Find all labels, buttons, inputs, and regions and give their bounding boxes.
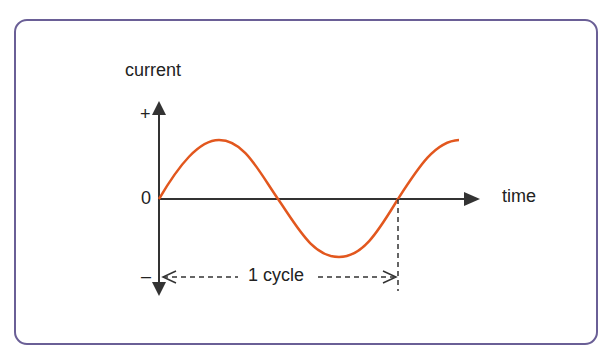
ac-current-diagram bbox=[0, 0, 609, 357]
right-arrow-icon bbox=[464, 192, 480, 206]
zero-label: 0 bbox=[141, 188, 151, 209]
x-axis-label: time bbox=[502, 186, 536, 207]
up-arrow-icon bbox=[152, 101, 166, 115]
y-axis-label: current bbox=[125, 60, 181, 81]
x-axis bbox=[159, 192, 480, 206]
cycle-label: 1 cycle bbox=[248, 265, 304, 286]
down-arrow-icon bbox=[152, 282, 166, 296]
minus-label: – bbox=[141, 266, 151, 287]
plus-label: + bbox=[140, 104, 151, 125]
